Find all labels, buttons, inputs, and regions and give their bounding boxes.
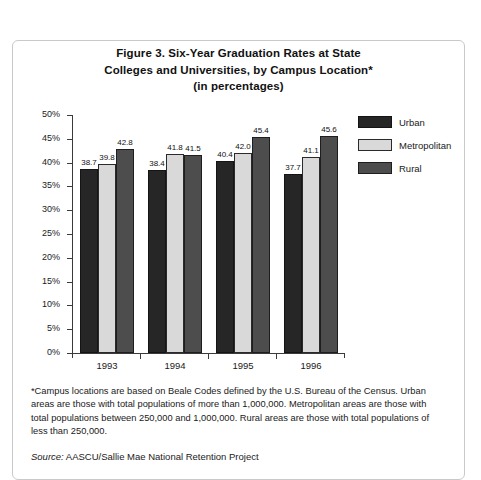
x-axis-cap [72, 353, 73, 358]
bar-value-label: 37.7 [285, 163, 301, 172]
bar-rural-1996: 45.6 [320, 136, 338, 353]
y-axis-line [72, 115, 73, 354]
y-tick [67, 258, 72, 259]
legend-swatch-metropolitan [358, 139, 392, 151]
y-tick-label: 40% [14, 157, 60, 167]
bar-value-label: 38.7 [81, 158, 97, 167]
y-tick [67, 139, 72, 140]
y-tick-label: 30% [14, 204, 60, 214]
bar-value-label: 39.8 [99, 153, 115, 162]
y-tick [67, 115, 72, 116]
bar-value-label: 41.1 [303, 146, 319, 155]
legend-label-rural: Rural [399, 163, 422, 174]
bar-value-label: 42.8 [117, 138, 133, 147]
bar-urban-1996: 37.7 [284, 174, 302, 353]
bar-rural-1994: 41.5 [184, 155, 202, 353]
legend-label-urban: Urban [399, 117, 425, 128]
x-axis-label-1994: 1994 [138, 360, 212, 371]
x-separator [208, 353, 209, 359]
legend-label-metropolitan: Metropolitan [399, 140, 451, 151]
bar-value-label: 45.4 [253, 126, 269, 135]
legend-swatch-urban [358, 116, 392, 128]
bar-urban-1995: 40.4 [216, 161, 234, 353]
x-separator [140, 353, 141, 359]
legend-item-urban: Urban [358, 112, 458, 132]
y-tick [67, 234, 72, 235]
x-axis-cap [344, 353, 345, 358]
y-tick [67, 282, 72, 283]
bar-value-label: 40.4 [217, 150, 233, 159]
y-tick [67, 210, 72, 211]
legend-item-metropolitan: Metropolitan [358, 135, 458, 155]
bar-value-label: 45.6 [321, 125, 337, 134]
y-tick-label: 45% [14, 133, 60, 143]
bar-rural-1995: 45.4 [252, 137, 270, 353]
bar-rural-1993: 42.8 [116, 149, 134, 353]
y-tick-label: 0% [14, 347, 60, 357]
y-tick-label: 15% [14, 276, 60, 286]
y-tick [67, 163, 72, 164]
figure-source: Source: AASCU/Sallie Mae National Retent… [31, 451, 259, 462]
bar-group-1993: 38.739.842.8 [80, 115, 134, 353]
y-tick-label: 50% [14, 109, 60, 119]
y-tick [67, 329, 72, 330]
source-text: AASCU/Sallie Mae National Retention Proj… [64, 451, 259, 462]
x-axis-label-1995: 1995 [206, 360, 280, 371]
source-label: Source: [31, 451, 64, 462]
y-tick [67, 305, 72, 306]
bar-urban-1993: 38.7 [80, 169, 98, 353]
legend-item-rural: Rural [358, 158, 458, 178]
legend-swatch-rural [358, 162, 392, 174]
bar-value-label: 42.0 [235, 142, 251, 151]
y-tick-label: 35% [14, 180, 60, 190]
x-axis-label-1993: 1993 [70, 360, 144, 371]
chart-legend: Urban Metropolitan Rural [358, 112, 458, 181]
x-axis-label-1996: 1996 [274, 360, 348, 371]
bar-group-1996: 37.741.145.6 [284, 115, 338, 353]
y-tick-label: 5% [14, 323, 60, 333]
bar-metropolitan-1993: 39.8 [98, 164, 116, 353]
bar-value-label: 38.4 [149, 159, 165, 168]
bar-group-1995: 40.442.045.4 [216, 115, 270, 353]
bar-metropolitan-1994: 41.8 [166, 154, 184, 353]
y-tick-label: 10% [14, 299, 60, 309]
x-separator [276, 353, 277, 359]
y-tick-label: 25% [14, 228, 60, 238]
figure-footnote: *Campus locations are based on Beale Cod… [31, 385, 446, 439]
y-tick-label: 20% [14, 252, 60, 262]
bar-metropolitan-1996: 41.1 [302, 157, 320, 353]
bar-value-label: 41.5 [185, 144, 201, 153]
bar-value-label: 41.8 [167, 143, 183, 152]
bar-group-1994: 38.441.841.5 [148, 115, 202, 353]
y-tick [67, 186, 72, 187]
bar-urban-1994: 38.4 [148, 170, 166, 353]
bar-metropolitan-1995: 42.0 [234, 153, 252, 353]
